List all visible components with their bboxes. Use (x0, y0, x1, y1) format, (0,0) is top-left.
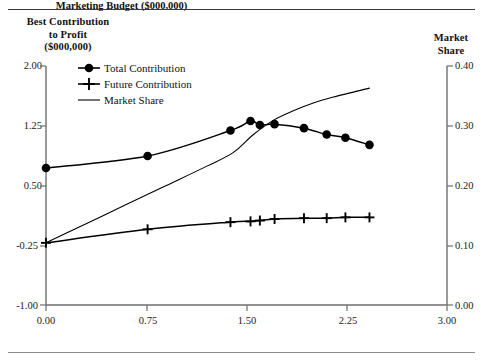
left-axis-ticks (40, 66, 46, 305)
data-point-marker (226, 126, 235, 135)
data-point-marker (225, 217, 235, 227)
data-point-marker (322, 213, 332, 223)
data-point-marker (300, 124, 309, 133)
series-line (46, 217, 369, 243)
data-point-marker (143, 224, 153, 234)
data-point-marker (270, 214, 280, 224)
data-point-marker (256, 121, 265, 130)
data-point-marker (246, 117, 255, 126)
x-axis-ticks (46, 305, 447, 311)
chart-figure: Best Contribution to Profit ($000,000) M… (0, 0, 483, 361)
data-point-marker (340, 212, 350, 222)
data-point-marker (143, 152, 152, 161)
series-market-share (46, 88, 369, 243)
legend-marker-filled-circle-icon (78, 64, 100, 73)
data-point-marker (322, 130, 331, 139)
data-point-marker (299, 213, 309, 223)
plot-area (0, 0, 483, 361)
series-total-contribution (42, 117, 374, 173)
data-point-marker (42, 164, 51, 173)
right-axis-ticks (447, 66, 453, 305)
data-point-marker (341, 133, 350, 142)
data-point-marker (364, 212, 374, 222)
data-series-layer (41, 88, 374, 248)
data-point-marker (255, 216, 265, 226)
series-line (46, 121, 369, 168)
series-line (46, 88, 369, 243)
legend-marker-plus-icon (78, 78, 100, 90)
series-future-contribution (41, 212, 374, 247)
data-point-marker (246, 216, 256, 226)
data-point-marker (365, 141, 374, 150)
